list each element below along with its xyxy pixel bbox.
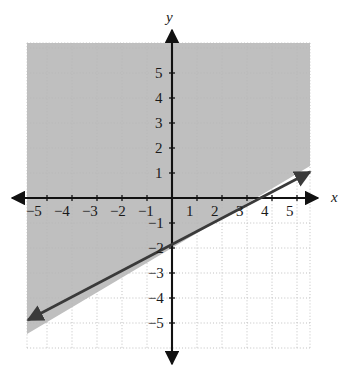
coordinate-plane-svg xyxy=(0,0,345,373)
y-tick-label-neg-2: −2 xyxy=(148,241,163,256)
x-tick-label-3: 3 xyxy=(236,204,243,219)
x-tick-label-neg-2: −2 xyxy=(110,204,125,219)
y-axis-label: y xyxy=(166,10,173,25)
x-tick-label-neg-4: −4 xyxy=(54,204,69,219)
graph-figure: −5 −4 −3 −2 −1 1 2 3 4 5 5 4 3 2 1 −1 −2… xyxy=(0,0,345,373)
y-tick-label-5: 5 xyxy=(155,66,162,81)
x-tick-label-neg-3: −3 xyxy=(82,204,97,219)
x-tick-label-4: 4 xyxy=(261,204,268,219)
y-tick-label-neg-4: −4 xyxy=(148,291,163,306)
x-tick-label-5: 5 xyxy=(286,204,293,219)
x-tick-label-1: 1 xyxy=(186,204,193,219)
x-tick-label-2: 2 xyxy=(211,204,218,219)
x-tick-label-neg-5: −5 xyxy=(26,204,41,219)
y-tick-label-2: 2 xyxy=(155,141,162,156)
y-tick-label-neg-5: −5 xyxy=(148,316,163,331)
y-tick-label-1: 1 xyxy=(155,166,162,181)
x-axis-label: x xyxy=(331,190,338,205)
shaded-region xyxy=(27,43,310,334)
y-tick-label-3: 3 xyxy=(155,116,162,131)
y-tick-label-neg-3: −3 xyxy=(148,266,163,281)
y-tick-label-neg-1: −1 xyxy=(148,216,163,231)
y-tick-label-4: 4 xyxy=(155,91,162,106)
